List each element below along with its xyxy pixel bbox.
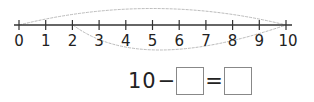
tick-label: 0: [14, 32, 24, 50]
minus-sign: −: [158, 69, 176, 93]
tick-label: 9: [255, 32, 265, 50]
tick-labels: 0 1 2 3 4 5 6 7 8 9 10: [14, 32, 297, 50]
tick-label: 3: [94, 32, 104, 50]
tick-label: 1: [41, 32, 51, 50]
tick-label: 6: [174, 32, 184, 50]
equals-sign: =: [205, 69, 223, 93]
subtrahend-answer-box[interactable]: [176, 67, 204, 95]
tick-label: 10: [278, 32, 297, 50]
result-answer-box[interactable]: [224, 67, 252, 95]
tick-label: 7: [201, 32, 211, 50]
tick-label: 8: [228, 32, 238, 50]
tick-label: 5: [148, 32, 158, 50]
tick-label: 2: [68, 32, 78, 50]
minuend: 10: [128, 69, 157, 93]
tick-label: 4: [121, 32, 131, 50]
subtraction-equation: 10 − =: [128, 68, 252, 94]
